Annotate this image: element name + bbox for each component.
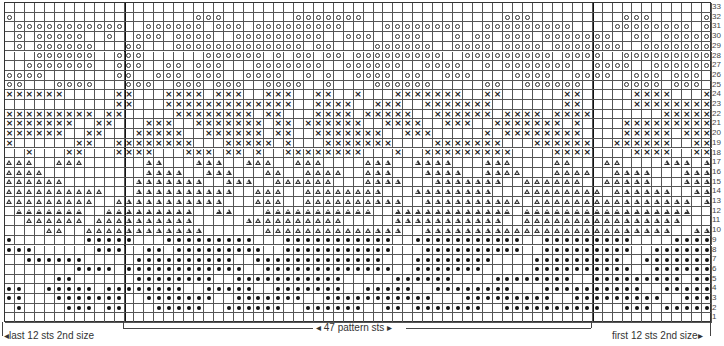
stitch-cell xyxy=(35,236,45,246)
stitch-cell xyxy=(294,158,304,168)
cross-icon: × xyxy=(215,100,223,109)
stitch-cell xyxy=(184,284,194,294)
stitch-cell xyxy=(423,22,433,32)
stitch-cell xyxy=(603,42,613,52)
stitch-cell xyxy=(105,255,115,265)
stitch-cell xyxy=(702,71,712,81)
stitch-cell xyxy=(623,178,633,188)
stitch-cell xyxy=(533,265,543,275)
stitch-cell xyxy=(75,275,85,285)
stitch-cell xyxy=(204,216,214,226)
cross-icon: × xyxy=(573,129,581,138)
circle-icon xyxy=(47,63,52,68)
triangle-icon xyxy=(425,189,431,194)
stitch-cell xyxy=(593,81,603,91)
stitch-cell xyxy=(105,187,115,197)
stitch-cell xyxy=(433,13,443,23)
cross-icon: × xyxy=(444,119,452,128)
cross-icon: × xyxy=(56,90,64,99)
stitch-cell xyxy=(184,197,194,207)
stitch-cell xyxy=(204,32,214,42)
cross-icon: × xyxy=(235,119,243,128)
stitch-cell xyxy=(184,168,194,178)
cross-icon: × xyxy=(424,129,432,138)
stitch-cell xyxy=(304,275,314,285)
stitch-cell xyxy=(682,226,692,236)
dot-icon xyxy=(545,238,549,242)
cross-icon: × xyxy=(125,139,133,148)
stitch-cell xyxy=(543,178,553,188)
stitch-cell xyxy=(224,226,234,236)
stitch-cell xyxy=(314,71,324,81)
stitch-cell xyxy=(234,197,244,207)
stitch-cell xyxy=(483,304,493,314)
triangle-icon xyxy=(275,189,281,194)
stitch-cell xyxy=(662,246,672,256)
stitch-cell xyxy=(682,158,692,168)
cross-icon: × xyxy=(404,119,412,128)
row-number: 29 xyxy=(712,41,721,51)
stitch-cell xyxy=(274,294,284,304)
stitch-cell xyxy=(513,178,523,188)
stitch-cell xyxy=(652,13,662,23)
triangle-icon xyxy=(624,179,630,184)
triangle-icon xyxy=(435,170,441,175)
stitch-cell xyxy=(254,158,264,168)
stitch-cell xyxy=(553,168,563,178)
stitch-cell xyxy=(463,42,473,52)
stitch-cell xyxy=(364,255,374,265)
cross-icon: × xyxy=(324,110,332,119)
stitch-cell xyxy=(433,52,443,62)
triangle-icon xyxy=(136,209,142,214)
stitch-cell xyxy=(573,168,583,178)
stitch-cell xyxy=(254,255,264,265)
stitch-cell xyxy=(154,207,164,217)
stitch-cell xyxy=(244,158,254,168)
stitch-cell xyxy=(364,22,374,32)
triangle-icon xyxy=(435,209,441,214)
triangle-icon xyxy=(206,189,212,194)
cross-icon: × xyxy=(454,119,462,128)
stitch-cell xyxy=(473,246,483,256)
stitch-cell xyxy=(453,32,463,42)
stitch-cell xyxy=(224,178,234,188)
stitch-cell xyxy=(672,313,682,323)
stitch-cell xyxy=(65,61,75,71)
triangle-icon xyxy=(325,170,331,175)
stitch-cell xyxy=(314,207,324,217)
circle-icon xyxy=(654,63,659,68)
stitch-cell xyxy=(194,187,204,197)
stitch-cell xyxy=(374,71,384,81)
dot-icon xyxy=(525,296,529,300)
circle-icon xyxy=(694,44,699,49)
stitch-cell xyxy=(603,110,613,120)
stitch-cell xyxy=(174,158,184,168)
stitch-cell xyxy=(553,246,563,256)
circle-icon xyxy=(545,53,550,58)
stitch-cell xyxy=(613,32,623,42)
dot-icon xyxy=(665,267,669,271)
stitch-cell xyxy=(5,149,15,159)
row-number: 4 xyxy=(712,283,716,293)
dot-icon xyxy=(635,277,639,281)
circle-icon xyxy=(87,53,92,58)
cross-icon: × xyxy=(514,110,522,119)
stitch-cell xyxy=(125,52,135,62)
circle-icon xyxy=(196,44,201,49)
stitch-cell xyxy=(134,246,144,256)
stitch-cell: × xyxy=(393,149,403,159)
stitch-cell: × xyxy=(672,119,682,129)
circle-icon xyxy=(664,63,669,68)
circle-icon xyxy=(535,44,540,49)
stitch-cell xyxy=(224,284,234,294)
stitch-cell xyxy=(513,32,523,42)
stitch-cell xyxy=(25,61,35,71)
triangle-icon xyxy=(196,228,202,233)
stitch-cell xyxy=(65,32,75,42)
dot-icon xyxy=(17,296,21,300)
stitch-cell xyxy=(75,158,85,168)
stitch-cell xyxy=(553,236,563,246)
stitch-cell xyxy=(513,168,523,178)
stitch-cell xyxy=(115,304,125,314)
stitch-cell xyxy=(344,255,354,265)
